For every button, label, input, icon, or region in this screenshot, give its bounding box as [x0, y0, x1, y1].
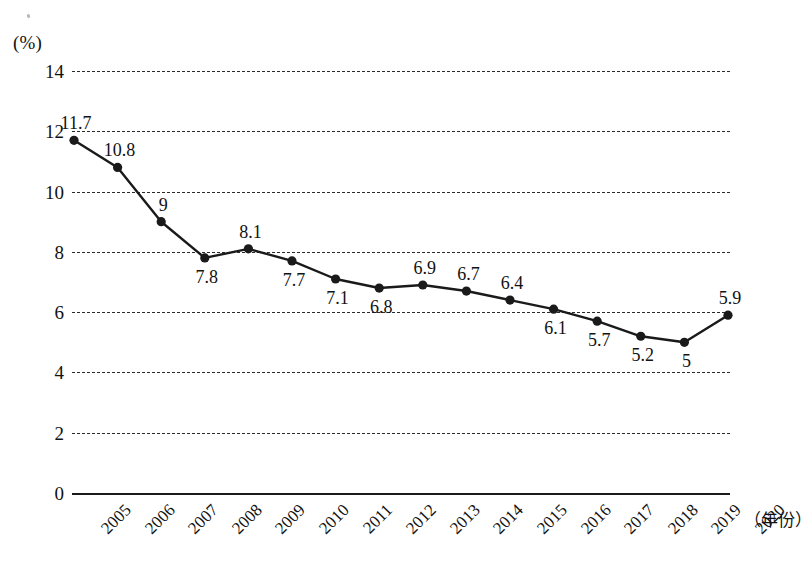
- data-series-line: [72, 71, 730, 493]
- y-tick-label: 2: [24, 423, 64, 442]
- plot-area: 11.710.897.88.17.77.16.86.96.76.46.15.75…: [72, 71, 730, 493]
- y-tick-label: 0: [24, 484, 64, 503]
- data-point-marker: [680, 338, 689, 347]
- data-point-label: 11.7: [61, 114, 92, 132]
- data-point-label: 6.4: [501, 274, 524, 292]
- x-tick-label: 2009: [272, 501, 308, 537]
- data-point-label: 6.7: [457, 265, 480, 283]
- x-tick-label: 2015: [534, 501, 570, 537]
- y-axis-unit-label: (%): [13, 33, 42, 52]
- x-axis-title: （年份）: [744, 512, 810, 529]
- gridline-0: [72, 493, 730, 495]
- x-tick-label: 2010: [316, 501, 352, 537]
- data-point-marker: [723, 311, 732, 320]
- line-chart: (%) 11.710.897.88.17.77.16.86.96.76.46.1…: [0, 0, 810, 580]
- data-point-marker: [331, 274, 340, 283]
- data-point-label: 9: [159, 196, 168, 214]
- data-point-marker: [287, 256, 296, 265]
- scan-artifact-speck: [26, 14, 30, 19]
- data-point-label: 7.8: [196, 268, 219, 286]
- x-tick-label: 2016: [578, 501, 614, 537]
- data-point-label: 7.1: [326, 289, 349, 307]
- y-tick-label: 10: [24, 182, 64, 201]
- x-tick-label: 2017: [621, 501, 657, 537]
- data-point-marker: [462, 286, 471, 295]
- data-point-marker: [593, 317, 602, 326]
- y-tick-label: 14: [24, 62, 64, 81]
- data-point-label: 5.7: [588, 331, 611, 349]
- data-point-label: 5.9: [719, 289, 742, 307]
- y-tick-label: 12: [24, 122, 64, 141]
- data-point-marker: [418, 280, 427, 289]
- x-tick-label: 2008: [229, 501, 265, 537]
- y-tick-label: 4: [24, 363, 64, 382]
- data-point-label: 7.7: [283, 271, 306, 289]
- x-tick-label: 2013: [447, 501, 483, 537]
- x-tick-label: 2011: [359, 501, 395, 537]
- y-tick-label: 6: [24, 303, 64, 322]
- data-point-label: 6.8: [370, 298, 393, 316]
- data-point-marker: [636, 332, 645, 341]
- data-point-marker: [157, 217, 166, 226]
- data-point-label: 6.1: [544, 319, 567, 337]
- data-point-marker: [505, 295, 514, 304]
- x-tick-label: 2014: [490, 501, 526, 537]
- data-point-marker: [244, 244, 253, 253]
- data-point-label: 5: [682, 352, 691, 370]
- x-tick-label: 2005: [98, 501, 134, 537]
- data-point-marker: [69, 136, 78, 145]
- data-point-label: 6.9: [414, 259, 437, 277]
- data-point-marker: [549, 305, 558, 314]
- x-tick-label: 2018: [665, 501, 701, 537]
- x-tick-label: 2019: [708, 501, 744, 537]
- data-point-marker: [375, 283, 384, 292]
- data-point-marker: [113, 163, 122, 172]
- data-point-label: 8.1: [239, 223, 262, 241]
- data-point-label: 5.2: [632, 346, 655, 364]
- data-point-label: 10.8: [104, 141, 136, 159]
- x-tick-label: 2006: [142, 501, 178, 537]
- data-point-marker: [200, 253, 209, 262]
- x-tick-label: 2007: [185, 501, 221, 537]
- x-tick-label: 2012: [403, 501, 439, 537]
- y-tick-label: 8: [24, 242, 64, 261]
